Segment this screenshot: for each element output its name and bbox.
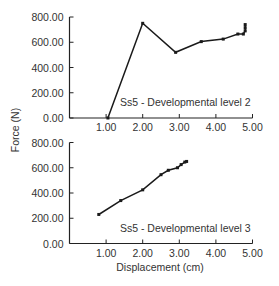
data-point-marker bbox=[174, 51, 177, 54]
x-tick-label: 4.00 bbox=[206, 121, 227, 133]
data-point-marker bbox=[185, 160, 188, 163]
data-point-marker bbox=[244, 23, 247, 26]
force-displacement-figure: 0.00200.00400.00600.00800.001.002.003.00… bbox=[0, 0, 279, 286]
x-tick-label: 5.00 bbox=[242, 121, 263, 133]
data-point-marker bbox=[180, 163, 183, 166]
data-point-marker bbox=[141, 22, 144, 25]
x-tick-label: 2.00 bbox=[132, 121, 153, 133]
x-tick-label: 5.00 bbox=[242, 247, 263, 259]
x-axis-label: Displacement (cm) bbox=[116, 261, 204, 273]
y-tick-label: 400.00 bbox=[31, 62, 63, 74]
y-axis-label: Force (N) bbox=[9, 108, 21, 152]
y-tick-label: 0.00 bbox=[43, 238, 64, 250]
series-legend-label: Ss5 - Developmental level 2 bbox=[120, 96, 251, 108]
x-tick-label: 4.00 bbox=[206, 247, 227, 259]
data-point-marker bbox=[106, 117, 109, 120]
data-point-marker bbox=[119, 199, 122, 202]
y-tick-label: 400.00 bbox=[31, 187, 63, 199]
data-point-marker bbox=[222, 38, 225, 41]
y-tick-label: 800.00 bbox=[31, 137, 63, 149]
data-point-marker bbox=[167, 169, 170, 172]
data-point-marker bbox=[242, 33, 245, 36]
y-tick-label: 800.00 bbox=[31, 11, 63, 23]
data-point-marker bbox=[244, 26, 247, 29]
y-tick-label: 200.00 bbox=[31, 87, 63, 99]
data-point-marker bbox=[141, 188, 144, 191]
data-point-marker bbox=[160, 173, 163, 176]
y-tick-label: 600.00 bbox=[31, 162, 63, 174]
data-point-marker bbox=[244, 29, 247, 32]
data-point-marker bbox=[97, 213, 100, 216]
y-tick-label: 200.00 bbox=[31, 212, 63, 224]
data-point-marker bbox=[176, 166, 179, 169]
y-tick-label: 600.00 bbox=[31, 36, 63, 48]
series-legend-label: Ss5 - Developmental level 3 bbox=[120, 222, 251, 234]
y-tick-label: 0.00 bbox=[43, 112, 64, 124]
data-point-marker bbox=[236, 33, 239, 36]
data-line bbox=[99, 161, 187, 214]
x-tick-label: 3.00 bbox=[169, 247, 190, 259]
x-tick-label: 2.00 bbox=[132, 247, 153, 259]
data-point-marker bbox=[200, 40, 203, 43]
x-tick-label: 3.00 bbox=[169, 121, 190, 133]
x-tick-label: 1.00 bbox=[96, 247, 117, 259]
x-tick-label: 1.00 bbox=[96, 121, 117, 133]
